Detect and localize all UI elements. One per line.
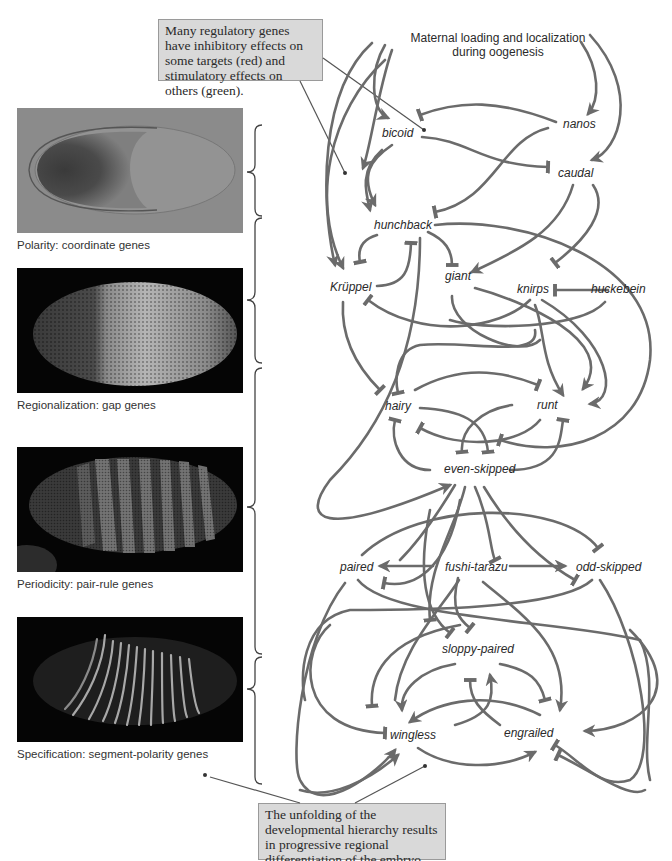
gene-hairy: hairy <box>385 399 412 413</box>
gene-regulatory-network: Maternal loading and localization during… <box>0 0 672 861</box>
gene-even-skipped: even-skipped <box>444 462 516 476</box>
gene-knirps: knirps <box>517 282 549 296</box>
gene-odd-skipped: odd-skipped <box>576 560 642 574</box>
gene-huckebein: huckebein <box>591 282 646 296</box>
gene-runt: runt <box>537 398 558 412</box>
gene-sloppy-paired: sloppy-paired <box>442 642 514 656</box>
maternal-label-line2: during oogenesis <box>452 45 543 59</box>
gene-hunchback: hunchback <box>374 218 433 232</box>
gene-fushi-tarazu: fushi-tarazu <box>445 560 508 574</box>
bracket-polarity <box>247 125 262 216</box>
gene-bicoid: bicoid <box>382 126 414 140</box>
bracket-periodicity <box>247 368 262 654</box>
gene-giant: giant <box>445 269 472 283</box>
gene-nanos: nanos <box>563 117 596 131</box>
gene-paired: paired <box>339 560 374 574</box>
gene-kruppel: Krüppel <box>330 280 372 294</box>
maternal-label-line1: Maternal loading and localization <box>411 31 586 45</box>
bracket-regionalization <box>247 218 262 363</box>
gene-engrailed: engrailed <box>504 726 554 740</box>
regulatory-edges <box>296 35 657 795</box>
gene-wingless: wingless <box>390 728 436 742</box>
bracket-specification <box>247 657 262 784</box>
gene-caudal: caudal <box>558 166 594 180</box>
